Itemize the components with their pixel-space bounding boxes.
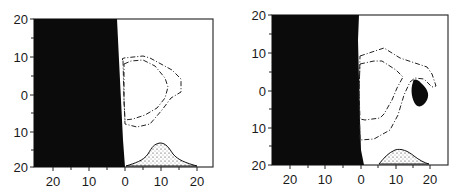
left-panel: 20 10 0 10 20 20 10 0 10 20 <box>14 12 213 189</box>
y-tick-label: 0 <box>21 88 28 103</box>
y-tick-label: 20 <box>252 158 266 173</box>
x-tick-label: 10 <box>82 174 96 189</box>
y-tick-label: 20 <box>252 8 266 23</box>
x-tick-label: 20 <box>283 172 297 187</box>
y-tick-label: 10 <box>252 121 266 136</box>
figure: 20 10 0 10 20 20 10 0 10 20 <box>0 0 467 193</box>
x-tick-label: 20 <box>423 172 437 187</box>
x-tick-label: 20 <box>46 174 60 189</box>
right-panel: 20 10 0 10 20 20 10 0 10 20 <box>252 8 448 187</box>
y-tick-label: 10 <box>252 46 266 61</box>
x-tick-label: 0 <box>357 172 364 187</box>
y-tick-label: 0 <box>259 84 266 99</box>
y-tick-label: 10 <box>14 125 28 140</box>
x-tick-label: 10 <box>154 174 168 189</box>
x-tick-label: 10 <box>318 172 332 187</box>
y-tick-label: 20 <box>14 160 28 175</box>
x-axis <box>290 165 430 169</box>
y-tick-label: 20 <box>14 12 28 27</box>
solid-black-region <box>272 15 364 165</box>
x-axis <box>53 167 197 171</box>
y-axis <box>268 15 272 165</box>
x-tick-label: 0 <box>121 174 128 189</box>
solid-black-region <box>34 19 125 167</box>
x-tick-label: 10 <box>389 172 403 187</box>
y-tick-label: 10 <box>14 50 28 65</box>
x-tick-label: 20 <box>190 174 204 189</box>
